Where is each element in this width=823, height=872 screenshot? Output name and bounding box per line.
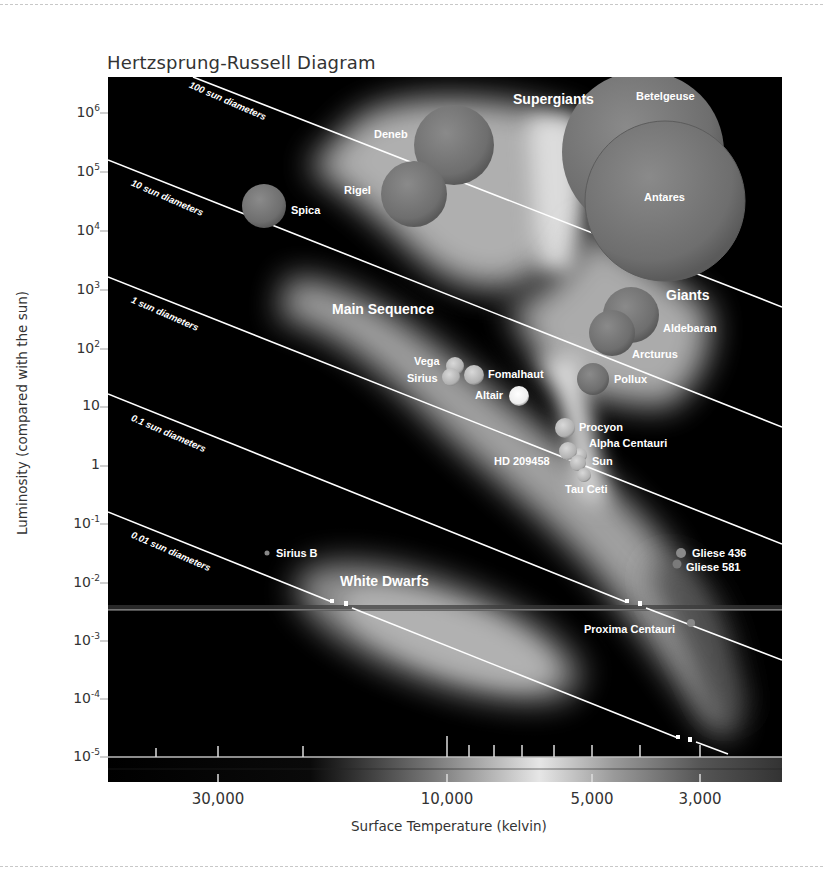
star-label-altair: Altair <box>475 389 503 401</box>
star-label-betelgeuse: Betelgeuse <box>636 90 695 102</box>
star-label-procyon: Procyon <box>579 421 623 433</box>
y-tick-label: 105 <box>76 163 100 178</box>
chart-title: Hertzsprung-Russell Diagram <box>107 52 376 73</box>
y-tick-label: 10-2 <box>73 574 100 589</box>
star-label-tau-ceti: Tau Ceti <box>565 483 608 495</box>
star-label-deneb: Deneb <box>374 128 408 140</box>
x-tick-label: 10,000 <box>421 790 474 808</box>
star-label-sirius: Sirius <box>407 372 438 384</box>
y-tick-label: 10-3 <box>73 632 100 647</box>
y-tick-label: 102 <box>76 340 100 355</box>
star-label-arcturus: Arcturus <box>632 348 678 360</box>
star-label-fomalhaut: Fomalhaut <box>488 368 544 380</box>
x-tick-label: 3,000 <box>679 790 722 808</box>
y-tick-label: 10-4 <box>73 690 100 705</box>
star-label-gliese-581: Gliese 581 <box>686 561 740 573</box>
star-label-alpha-centauri: Alpha Centauri <box>589 437 667 449</box>
star-label-hd-209458: HD 209458 <box>494 455 550 467</box>
top-dashed-border <box>0 4 823 5</box>
y-tick-label: 1 <box>91 457 100 471</box>
region-label-white-dwarfs: White Dwarfs <box>340 573 429 589</box>
bottom-dashed-border <box>0 866 823 867</box>
star-label-proxima-centauri: Proxima Centauri <box>584 623 675 635</box>
star-label-sun: Sun <box>592 455 613 467</box>
y-tick-label: 10 <box>82 398 100 412</box>
x-tick-label: 5,000 <box>571 790 614 808</box>
region-label-supergiants: Supergiants <box>513 91 594 107</box>
y-tick-label: 10-5 <box>73 748 100 763</box>
star-label-vega: Vega <box>414 355 440 367</box>
star-label-aldebaran: Aldebaran <box>663 322 717 334</box>
star-label-sirius-b: Sirius B <box>276 547 318 559</box>
diagram-graphic <box>108 77 782 782</box>
star-label-gliese-436: Gliese 436 <box>692 547 746 559</box>
y-tick-label: 104 <box>76 222 100 237</box>
star-label-pollux: Pollux <box>614 373 647 385</box>
region-label-main-sequence: Main Sequence <box>332 301 434 317</box>
plot-area: Supergiants Giants Main Sequence White D… <box>108 77 782 782</box>
region-label-giants: Giants <box>666 287 710 303</box>
y-tick-label: 103 <box>76 281 100 296</box>
y-axis-label: Luminosity (compared with the sun) <box>14 291 30 535</box>
star-label-rigel: Rigel <box>344 184 371 196</box>
star-label-spica: Spica <box>291 204 320 216</box>
x-tick-label: 30,000 <box>192 790 245 808</box>
star-label-antares: Antares <box>644 191 685 203</box>
x-axis-label: Surface Temperature (kelvin) <box>351 818 547 834</box>
y-tick-label: 10-1 <box>73 515 100 530</box>
y-tick-label: 106 <box>76 104 100 119</box>
